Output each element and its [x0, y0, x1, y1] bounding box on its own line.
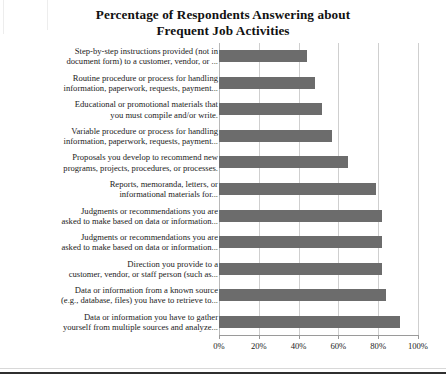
- category-row: Data or information you have to gatheryo…: [0, 308, 446, 335]
- category-label: Routine procedure or process for handlin…: [20, 73, 218, 93]
- chart-title-line-1: Percentage of Respondents Answering abou…: [0, 7, 446, 23]
- bar: [219, 210, 382, 222]
- chart-title-line-2: Frequent Job Activities: [0, 23, 446, 39]
- category-label-line: Data or information from a known source: [20, 285, 218, 295]
- x-tick-mark: [418, 335, 419, 339]
- bar: [219, 183, 376, 195]
- category-label-line: document form) to a customer, vendor, or…: [20, 56, 218, 66]
- bar-track: [219, 96, 418, 123]
- category-label-line: asked to make based on data or informati…: [20, 242, 218, 252]
- category-label-line: asked to make based on data or informati…: [20, 216, 218, 226]
- x-tick-mark: [219, 335, 220, 339]
- bar: [219, 236, 382, 248]
- bar-track: [219, 282, 418, 309]
- x-axis-line: [219, 335, 418, 336]
- scan-artifact-line: [0, 368, 446, 369]
- category-row: Variable procedure or process for handli…: [0, 123, 446, 150]
- bar: [219, 50, 307, 62]
- x-tick-label: 40%: [279, 341, 319, 351]
- category-label-line: you must compile and/or write.: [20, 109, 218, 119]
- category-row: Educational or promotional materials tha…: [0, 96, 446, 123]
- category-label-line: Routine procedure or process for handlin…: [20, 73, 218, 83]
- category-label-line: informational materials for...: [20, 189, 218, 199]
- category-row: Data or information from a known source(…: [0, 282, 446, 309]
- bar-track: [219, 202, 418, 229]
- category-label: Step-by-step instructions provided (not …: [20, 46, 218, 66]
- bar-track: [219, 123, 418, 150]
- category-label: Judgments or recommendations you areaske…: [20, 205, 218, 225]
- bar-track: [219, 308, 418, 335]
- category-label: Reports, memoranda, letters, orinformati…: [20, 179, 218, 199]
- category-label-line: Proposals you develop to recommend new: [20, 152, 218, 162]
- bar-track: [219, 176, 418, 203]
- x-tick-mark: [299, 335, 300, 339]
- category-label-line: Data or information you have to gather: [20, 312, 218, 322]
- category-label-line: Reports, memoranda, letters, or: [20, 179, 218, 189]
- x-tick-label: 0%: [199, 341, 239, 351]
- category-row: Judgments or recommendations you areaske…: [0, 202, 446, 229]
- bar: [219, 156, 348, 168]
- category-label: Data or information you have to gatheryo…: [20, 312, 218, 332]
- bar-chart-figure: Percentage of Respondents Answering abou…: [0, 0, 446, 383]
- category-row: Proposals you develop to recommend newpr…: [0, 149, 446, 176]
- bar: [219, 316, 400, 328]
- category-label-line: programs, projects, procedures, or proce…: [20, 162, 218, 172]
- category-row: Step-by-step instructions provided (not …: [0, 43, 446, 70]
- x-tick-mark: [378, 335, 379, 339]
- category-label-line: yourself from multiple sources and analy…: [20, 322, 218, 332]
- x-tick-mark: [338, 335, 339, 339]
- x-tick-label: 80%: [358, 341, 398, 351]
- bar-track: [219, 70, 418, 97]
- category-label-line: Direction you provide to a: [20, 258, 218, 268]
- category-label-line: Educational or promotional materials tha…: [20, 99, 218, 109]
- category-row: Routine procedure or process for handlin…: [0, 70, 446, 97]
- x-tick-label: 100%: [398, 341, 438, 351]
- chart-title: Percentage of Respondents Answering abou…: [0, 7, 446, 38]
- bar: [219, 77, 315, 89]
- category-label: Data or information from a known source(…: [20, 285, 218, 305]
- category-label-line: Judgments or recommendations you are: [20, 232, 218, 242]
- bar: [219, 263, 382, 275]
- bar: [219, 289, 386, 301]
- category-label-line: information, paperwork, requests, paymen…: [20, 136, 218, 146]
- category-row: Direction you provide to acustomer, vend…: [0, 255, 446, 282]
- category-label: Educational or promotional materials tha…: [20, 99, 218, 119]
- bar-track: [219, 149, 418, 176]
- category-label-line: Judgments or recommendations you are: [20, 205, 218, 215]
- bar: [219, 103, 322, 115]
- category-row: Judgments or recommendations you areaske…: [0, 229, 446, 256]
- x-tick-label: 60%: [318, 341, 358, 351]
- category-label: Proposals you develop to recommend newpr…: [20, 152, 218, 172]
- bar: [219, 130, 332, 142]
- x-tick-mark: [259, 335, 260, 339]
- category-label: Direction you provide to acustomer, vend…: [20, 258, 218, 278]
- category-label-line: customer, vendor, or staff person (such …: [20, 269, 218, 279]
- scan-artifact-edge: [0, 372, 446, 374]
- category-label-line: Step-by-step instructions provided (not …: [20, 46, 218, 56]
- category-label: Judgments or recommendations you areaske…: [20, 232, 218, 252]
- bar-track: [219, 43, 418, 70]
- x-tick-label: 20%: [239, 341, 279, 351]
- category-label-line: (e.g., database, files) you have to retr…: [20, 295, 218, 305]
- category-label-line: Variable procedure or process for handli…: [20, 126, 218, 136]
- bar-track: [219, 229, 418, 256]
- category-label: Variable procedure or process for handli…: [20, 126, 218, 146]
- bar-track: [219, 255, 418, 282]
- category-label-line: information, paperwork, requests, paymen…: [20, 83, 218, 93]
- category-row: Reports, memoranda, letters, orinformati…: [0, 176, 446, 203]
